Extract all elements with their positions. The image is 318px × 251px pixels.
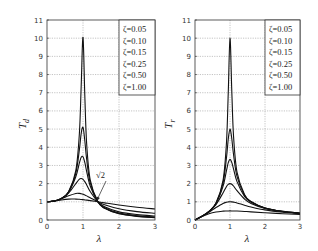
x-tick-label: 0 [45,223,49,231]
x-axis-label: λ [96,232,102,244]
series-line [195,202,300,220]
annotation-arrow [98,181,107,199]
x-tick-label: 2 [263,223,267,231]
legend-item: ζ=1.00 [123,82,146,92]
chart-panel-tr: 012345678910110123 λ Tr ζ=0.05 ζ=0.10 ζ=… [162,17,302,245]
legend-item: ζ=0.50 [123,70,146,80]
y-tick-label: 3 [187,162,191,170]
y-tick-label: 10 [182,35,191,43]
legend-item: ζ=0.15 [269,47,292,57]
y-tick-label: 4 [187,144,192,152]
y-tick-label: 7 [39,89,43,97]
legend-item: ζ=0.10 [123,36,146,46]
x-axis-label: λ [244,232,250,244]
legend-item: ζ=0.25 [123,59,146,69]
x-tick-label: 0 [193,223,197,231]
annotation-text: √2 [96,170,105,180]
y-tick-label: 0 [187,217,191,225]
y-tick-label: 2 [187,180,191,188]
y-tick-label: 1 [187,198,191,206]
y-tick-label: 7 [187,89,191,97]
legend-item: ζ=0.50 [269,70,292,80]
svg-text:Tr: Tr [162,119,177,129]
x-tick-label: 3 [153,223,157,231]
legend-item: ζ=1.00 [269,82,292,92]
legend-item: ζ=0.10 [269,36,292,46]
y-tick-label: 11 [182,17,191,25]
y-tick-label: 9 [187,53,191,61]
svg-text:Td: Td [16,118,31,129]
x-tick-label: 1 [81,223,85,231]
x-tick-label: 3 [298,223,302,231]
sqrt2-annotation: √2 [96,170,106,201]
y-tick-label: 6 [187,107,192,115]
y-tick-label: 10 [34,35,43,43]
y-tick-label: 11 [34,17,43,25]
y-tick-label: 9 [39,53,43,61]
legend-item: ζ=0.05 [269,24,292,34]
legend-item: ζ=0.15 [123,47,146,57]
y-tick-label: 3 [39,162,43,170]
x-tick-label: 2 [117,223,121,231]
legend-item: ζ=0.05 [123,24,146,34]
y-tick-label: 6 [39,107,44,115]
legend-item: ζ=0.25 [269,59,292,69]
y-tick-label: 8 [187,71,191,79]
y-axis-label: Tr [162,119,177,129]
y-tick-label: 2 [39,180,43,188]
chart-panel-td: 012345678910110123 λ Td ζ=0.05 ζ=0.10 ζ=… [16,17,157,245]
x-tick-label: 1 [228,223,232,231]
y-tick-label: 5 [187,126,191,134]
figure: 012345678910110123 λ Td ζ=0.05 ζ=0.10 ζ=… [0,0,318,251]
y-axis-label: Td [16,118,31,129]
y-tick-label: 5 [39,126,43,134]
y-tick-label: 1 [39,198,43,206]
series-line [47,178,155,216]
legend: ζ=0.05 ζ=0.10 ζ=0.15 ζ=0.25 ζ=0.50 ζ=1.0… [265,20,300,95]
legend: ζ=0.05 ζ=0.10 ζ=0.15 ζ=0.25 ζ=0.50 ζ=1.0… [119,20,155,95]
y-axis-label-sub: d [22,118,31,123]
y-axis-label-sub: r [168,119,177,123]
series-line [47,193,155,213]
y-tick-label: 4 [39,144,44,152]
y-tick-label: 8 [39,71,43,79]
y-tick-label: 0 [39,217,43,225]
